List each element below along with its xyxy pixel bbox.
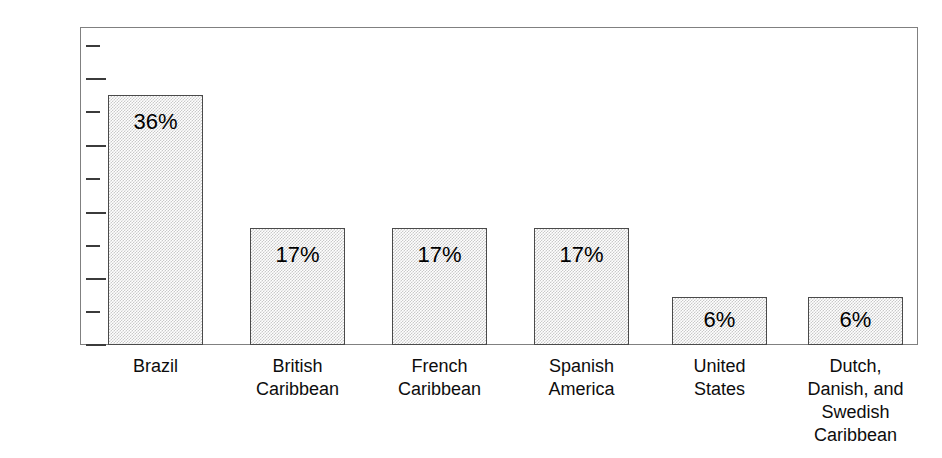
- bar-chart-figure: 40% 30% 20% 10% 0% 36% 17% 17% 17% 6% 6%…: [0, 0, 942, 458]
- bar-french-caribbean[interactable]: 17%: [392, 228, 487, 345]
- category-label-french-caribbean: French Caribbean: [362, 355, 517, 401]
- bar-value-spanish-america: 17%: [535, 243, 628, 267]
- bar-brazil[interactable]: 36%: [108, 95, 203, 345]
- bar-dutch-danish-swedish-caribbean[interactable]: 6%: [808, 297, 903, 345]
- bar-value-united-states: 6%: [673, 308, 766, 332]
- category-label-british-caribbean: British Caribbean: [220, 355, 375, 401]
- category-label-spanish-america: Spanish America: [504, 355, 659, 401]
- bar-value-british-caribbean: 17%: [251, 243, 344, 267]
- category-label-dutch-danish-swedish-caribbean: Dutch, Danish, and Swedish Caribbean: [778, 355, 933, 447]
- category-label-brazil: Brazil: [78, 355, 233, 378]
- bar-value-dutch-danish-swedish-caribbean: 6%: [809, 308, 902, 332]
- plot-area: 36% 17% 17% 17% 6% 6%: [80, 27, 918, 345]
- bar-spanish-america[interactable]: 17%: [534, 228, 629, 345]
- y-axis: 40% 30% 20% 10% 0%: [0, 0, 80, 458]
- category-label-united-states: United States: [642, 355, 797, 401]
- bar-value-french-caribbean: 17%: [393, 243, 486, 267]
- bar-value-brazil: 36%: [109, 110, 202, 134]
- bar-united-states[interactable]: 6%: [672, 297, 767, 345]
- bar-british-caribbean[interactable]: 17%: [250, 228, 345, 345]
